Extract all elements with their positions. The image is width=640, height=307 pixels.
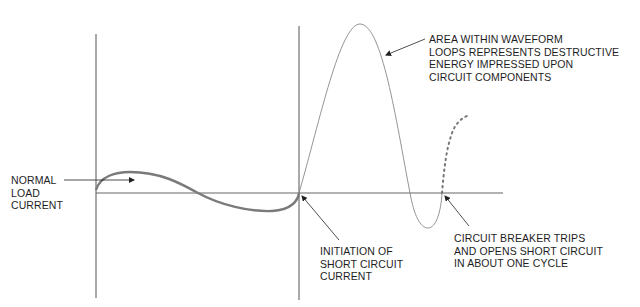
- normal-load-wave: [96, 172, 299, 211]
- normal-load-current-label: NORMAL LOAD CURRENT: [11, 174, 63, 212]
- area-within-arrow: [386, 39, 425, 55]
- circuit-breaker-trips-label: CIRCUIT BREAKER TRIPS AND OPENS SHORT CI…: [454, 232, 603, 270]
- initiation-arrow: [302, 196, 339, 240]
- fault-current-wave: [299, 24, 442, 228]
- breaker-trips-arrow: [445, 196, 469, 226]
- area-within-waveform-label: AREA WITHIN WAVEFORM LOOPS REPRESENTS DE…: [429, 33, 619, 83]
- initiation-of-short-circuit-label: INITIATION OF SHORT CIRCUIT CURRENT: [320, 245, 403, 283]
- prospective-current-dotted: [442, 116, 467, 193]
